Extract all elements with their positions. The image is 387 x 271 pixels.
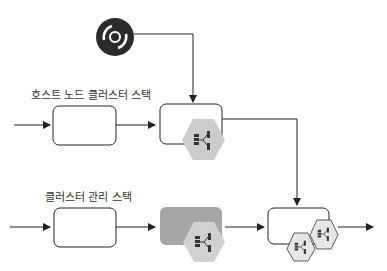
host-node-stack-box[interactable]: [53, 106, 116, 145]
node-to-merge-connector: [222, 119, 297, 205]
cluster-mgmt-stack-box[interactable]: [54, 208, 116, 247]
diagram-canvas: [0, 0, 387, 271]
cluster-mgmt-stack-label: 클러스터 관리 스택: [45, 188, 132, 204]
host-node-stack-label: 호스트 노드 클러스터 스택: [31, 86, 152, 102]
disc-icon: [96, 18, 134, 56]
